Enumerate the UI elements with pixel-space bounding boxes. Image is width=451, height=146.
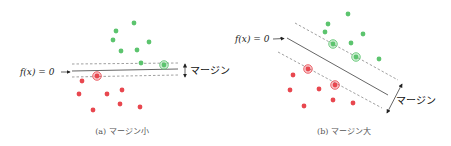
red-class-point	[138, 105, 143, 110]
hyperplane-label: f(x) = 0	[19, 67, 55, 77]
green-class-point	[377, 57, 382, 62]
points-a	[77, 21, 169, 113]
red-support-vector	[333, 83, 338, 88]
points-b	[288, 12, 382, 109]
margin-label: マージン	[396, 95, 436, 106]
hyperplane-pointer-arrow	[273, 39, 284, 40]
green-class-point	[349, 41, 354, 46]
green-support-vector	[162, 63, 167, 68]
green-class-point	[132, 21, 137, 26]
green-class-point	[135, 48, 140, 53]
red-class-point	[118, 102, 123, 107]
red-class-point	[77, 92, 82, 97]
lower-margin-line	[278, 52, 382, 108]
green-class-point	[323, 30, 328, 35]
green-support-vector	[354, 55, 359, 60]
green-class-point	[119, 49, 124, 54]
red-class-point	[291, 73, 296, 78]
panel-small-margin: f(x) = 0 マージン (a) マージン小	[19, 21, 230, 136]
green-class-point	[139, 61, 144, 66]
lower-margin-line	[72, 75, 178, 77]
lines-b	[278, 23, 398, 108]
red-class-point	[331, 98, 336, 103]
margin-label: マージン	[190, 65, 230, 76]
red-class-point	[80, 79, 85, 84]
red-support-vector	[95, 74, 100, 79]
red-class-point	[91, 108, 96, 113]
hyperplane-label: f(x) = 0	[234, 34, 270, 44]
red-class-point	[302, 104, 307, 109]
hyperplane-line	[72, 69, 178, 71]
red-class-point	[317, 87, 322, 92]
red-class-point	[288, 88, 293, 93]
green-class-point	[326, 22, 331, 27]
green-class-point	[111, 38, 116, 43]
red-class-point	[120, 88, 125, 93]
green-support-vector	[331, 42, 336, 47]
green-class-point	[114, 29, 119, 34]
red-class-point	[105, 92, 110, 97]
svm-margin-figure: f(x) = 0 マージン (a) マージン小 f(x) = 0 マージン (b…	[0, 0, 451, 146]
caption-a: (a) マージン小	[95, 127, 149, 136]
green-class-point	[346, 12, 351, 17]
red-support-vector	[306, 67, 311, 72]
green-class-point	[361, 32, 366, 37]
green-class-point	[147, 40, 152, 45]
caption-b: (b) マージン大	[317, 126, 371, 136]
red-class-point	[351, 101, 356, 106]
panel-large-margin: f(x) = 0 マージン (b) マージン大	[234, 12, 436, 136]
